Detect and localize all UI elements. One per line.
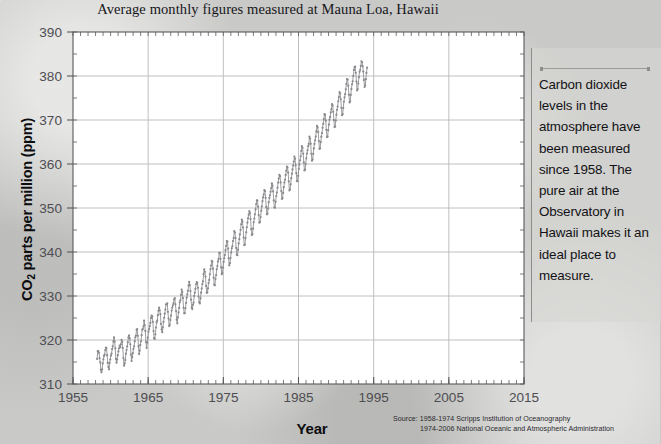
- x-tick-label: 1995: [359, 390, 389, 405]
- source-note: Source: 1958-1974 Scripps Institution of…: [393, 414, 660, 434]
- y-tick-label: 310: [39, 377, 62, 392]
- x-axis-tick-labels: 1955196519751985199520052015: [58, 390, 539, 405]
- y-tick-label: 390: [39, 25, 62, 40]
- x-tick-label: 1975: [208, 390, 238, 405]
- source-line-2: 1974-2006 National Oceanic and Atmospher…: [393, 424, 660, 434]
- x-axis-label: Year: [232, 420, 392, 437]
- y-axis-tick-labels: 310320330340350360370380390: [39, 25, 62, 392]
- y-tick-label: 320: [39, 333, 62, 348]
- y-tick-label: 340: [39, 245, 62, 260]
- y-axis-label-text: CO2 parts per million (ppm): [19, 118, 35, 301]
- x-tick-label: 2005: [434, 390, 464, 405]
- x-tick-label: 1985: [283, 390, 313, 405]
- y-tick-label: 360: [39, 157, 62, 172]
- x-tick-label: 1965: [133, 390, 163, 405]
- x-tick-label: 1955: [58, 390, 88, 405]
- caption-text: Carbon dioxide levels in the atmosphere …: [539, 74, 659, 286]
- y-tick-label: 380: [39, 69, 62, 84]
- caption-divider-rule: [540, 68, 650, 69]
- y-axis-label: CO2 parts per million (ppm): [19, 84, 38, 334]
- y-tick-label: 330: [39, 289, 62, 304]
- y-tick-label: 350: [39, 201, 62, 216]
- x-tick-label: 2015: [509, 390, 539, 405]
- source-line-1: Source: 1958-1974 Scripps Institution of…: [393, 415, 570, 423]
- y-tick-label: 370: [39, 113, 62, 128]
